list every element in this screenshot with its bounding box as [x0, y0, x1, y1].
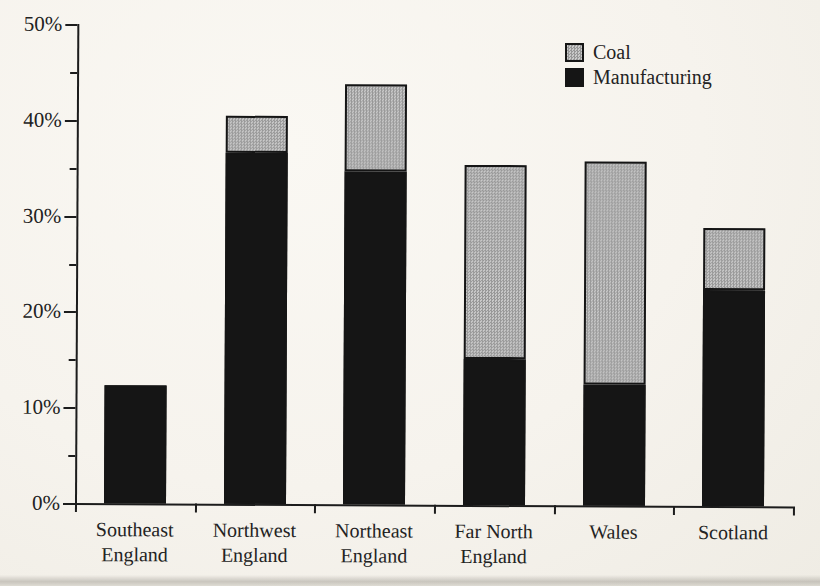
scanned-book-page: 0%10%20%30%40%50%SoutheastEnglandNorthwe… [0, 0, 820, 586]
x-axis-tick [554, 505, 556, 514]
bar-scotland-manufacturing-segment [702, 291, 765, 507]
legend-item-coal: Coal [565, 40, 712, 65]
bar-wales-coal-segment [583, 162, 646, 386]
chart-legend: CoalManufacturing [565, 40, 712, 90]
coal-swatch-icon [565, 43, 584, 62]
bar-northeast-england-coal-segment [345, 85, 407, 172]
category-label-line: England [424, 544, 564, 570]
bar-northwest-england-coal-segment [225, 116, 287, 154]
y-axis-tick-label: 20% [7, 299, 61, 323]
bar-far-north-england-coal-segment [464, 165, 527, 360]
y-minor-tick [69, 359, 76, 361]
x-axis-tick [434, 505, 436, 514]
legend-item-manufacturing: Manufacturing [565, 65, 712, 90]
manufacturing-swatch-icon [565, 68, 584, 87]
category-label-line: Scotland [663, 520, 803, 546]
y-major-tick [64, 216, 76, 218]
x-axis-tick [195, 504, 197, 513]
y-minor-tick [69, 263, 76, 265]
bar-far-north-england-manufacturing-segment [463, 359, 526, 505]
x-axis-tick [314, 504, 316, 513]
bar-southeast-england-manufacturing-segment [104, 385, 167, 503]
y-major-tick [64, 311, 76, 313]
y-major-tick [63, 407, 75, 409]
y-minor-tick [68, 455, 75, 457]
legend-label: Coal [593, 40, 631, 65]
y-axis-tick-label: 40% [8, 107, 62, 131]
stacked-bar-chart: 0%10%20%30%40%50%SoutheastEnglandNorthwe… [0, 0, 820, 586]
y-axis-tick-label: 10% [6, 395, 60, 419]
bar-northeast-england-manufacturing-segment [343, 171, 407, 505]
y-major-tick [65, 24, 77, 26]
y-axis-tick-label: 30% [7, 203, 61, 227]
y-major-tick [65, 120, 77, 122]
x-axis-tick [75, 503, 77, 512]
legend-label: Manufacturing [593, 65, 712, 90]
page-scan-artifact [0, 575, 820, 586]
y-major-tick [63, 503, 75, 505]
x-axis-tick [793, 507, 795, 516]
y-axis-tick-label: 50% [8, 12, 62, 36]
y-minor-tick [70, 72, 77, 74]
y-axis-tick-label: 0% [6, 491, 60, 515]
x-axis-category-label: Scotland [663, 520, 803, 546]
bar-northwest-england-manufacturing-segment [223, 153, 287, 504]
bar-wales-manufacturing-segment [582, 385, 645, 506]
y-minor-tick [70, 168, 77, 170]
x-axis-tick [673, 506, 675, 515]
bar-scotland-coal-segment [703, 228, 765, 291]
